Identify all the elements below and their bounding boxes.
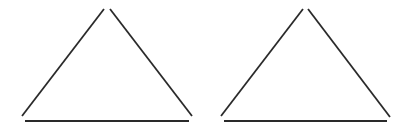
right-triangle-right-edge (308, 9, 390, 117)
right-triangle-left-edge (221, 9, 303, 116)
right-triangle (221, 9, 390, 121)
left-triangle-right-edge (110, 9, 192, 116)
left-triangle (22, 9, 192, 121)
diagram-canvas (0, 0, 410, 133)
triangles-figure (0, 0, 410, 133)
left-triangle-left-edge (22, 9, 104, 116)
